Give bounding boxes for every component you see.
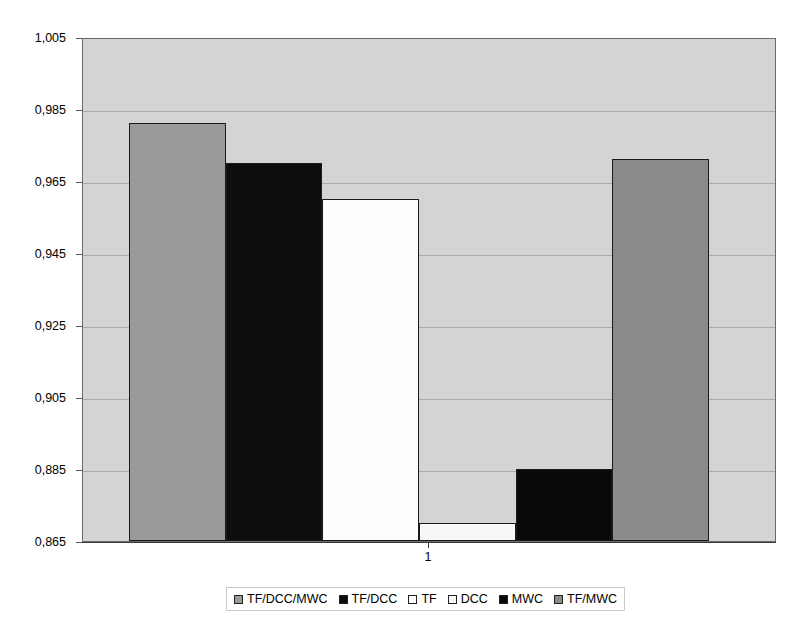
x-axis-line [82,542,776,543]
y-axis-tick-label: 1,005 [35,32,66,44]
legend-swatch-icon [448,595,457,604]
y-axis: 1,0050,9850,9650,9450,9250,9050,8850,865 [0,0,76,633]
legend-label: TF/DCC [352,593,398,606]
y-axis-tick-label: 0,925 [35,320,66,332]
legend-swatch-icon [408,595,417,604]
legend-item[interactable]: TF/DCC [339,593,398,606]
legend-label: TF [421,593,436,606]
legend-label: MWC [512,593,543,606]
y-axis-tick-label: 0,885 [35,464,66,476]
legend-item[interactable]: DCC [448,593,488,606]
legend-label: TF/DCC/MWC [247,593,328,606]
legend-label: DCC [461,593,488,606]
plot-area [82,38,776,542]
y-axis-tick-label: 0,985 [35,104,66,116]
bar-dcc [419,523,516,541]
bar-mwc [516,469,613,541]
bar-tf [322,199,419,541]
legend-swatch-icon [499,595,508,604]
y-axis-tick-label: 0,905 [35,392,66,404]
x-axis-tick-mark [428,542,429,548]
legend-swatch-icon [234,595,243,604]
bar-chart: 1,0050,9850,9650,9450,9250,9050,8850,865… [0,0,808,633]
gridline [83,111,775,112]
bar-tf-dcc [226,163,323,541]
legend-swatch-icon [554,595,563,604]
x-axis-tick-label: 1 [398,550,458,564]
legend-item[interactable]: MWC [499,593,543,606]
chart-legend: TF/DCC/MWCTF/DCCTFDCCMWCTF/MWC [226,587,625,611]
legend-item[interactable]: TF/MWC [554,593,617,606]
bar-tf-dcc-mwc [129,123,226,541]
legend-item[interactable]: TF/DCC/MWC [234,593,328,606]
y-axis-tick-label: 0,965 [35,176,66,188]
y-axis-tick-label: 0,945 [35,248,66,260]
legend-label: TF/MWC [567,593,617,606]
y-axis-tick-label: 0,865 [35,536,66,548]
legend-swatch-icon [339,595,348,604]
legend-item[interactable]: TF [408,593,436,606]
bar-tf-mwc [612,159,709,541]
